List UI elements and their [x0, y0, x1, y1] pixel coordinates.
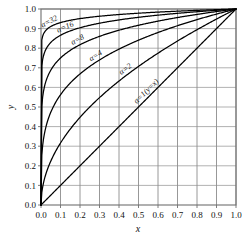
x-tick-label: 0.6: [152, 210, 164, 220]
y-tick-label: 0.8: [25, 43, 37, 53]
x-tick-label: 1.0: [230, 210, 242, 220]
y-tick-label: 0.1: [25, 181, 36, 191]
plot-svg: 0.00.10.20.30.40.50.60.70.80.91.0 0.00.1…: [0, 0, 250, 240]
x-tick-label: 0.7: [172, 210, 184, 220]
x-axis-title: x: [135, 223, 141, 234]
x-tick-label: 0.8: [191, 210, 203, 220]
y-tick-label: 0.3: [25, 141, 37, 151]
x-tick-label: 0.1: [55, 210, 66, 220]
y-tick-label: 0.0: [25, 200, 37, 210]
x-tick-label: 0.5: [133, 210, 145, 220]
x-tick-label: 0.3: [94, 210, 106, 220]
y-axis-title: y: [5, 104, 16, 110]
y-tick-label: 0.4: [25, 122, 37, 132]
x-tick-label: 0.0: [35, 210, 47, 220]
chart-figure: 0.00.10.20.30.40.50.60.70.80.91.0 0.00.1…: [0, 0, 250, 240]
y-tick-label: 0.5: [25, 102, 37, 112]
y-tick-label: 0.7: [25, 63, 37, 73]
y-tick-label: 0.9: [25, 24, 37, 34]
y-tick-label: 0.6: [25, 83, 37, 93]
y-tick-label: 1.0: [25, 4, 37, 14]
x-tick-label: 0.2: [74, 210, 85, 220]
x-tick-label: 0.9: [211, 210, 223, 220]
y-tick-label: 0.2: [25, 161, 36, 171]
x-tick-label: 0.4: [113, 210, 125, 220]
